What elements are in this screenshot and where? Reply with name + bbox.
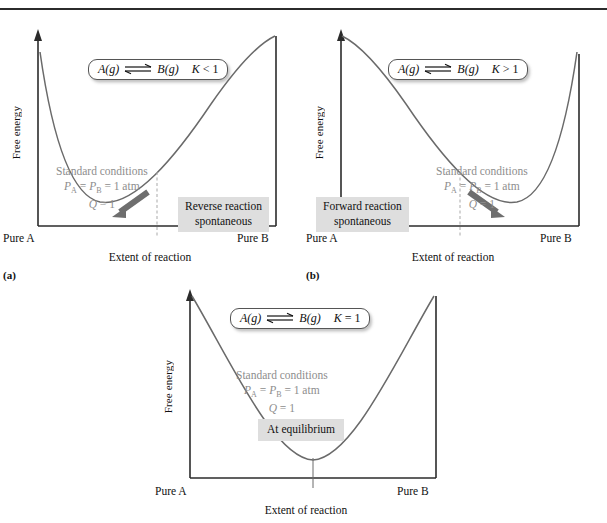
equation-reactant-a: A(g)	[98, 63, 119, 75]
spontaneity-callout-b-line2: spontaneous	[323, 214, 402, 229]
y-axis-label: Free energy	[10, 106, 22, 159]
x-axis-start-label-c: Pure A	[155, 485, 187, 497]
standard-conditions-b: Standard conditions PA = PB = 1 atm Q = …	[436, 164, 528, 212]
equation-product-c: B(g)	[299, 312, 320, 324]
panel-b: Free energy A(g)	[303, 18, 603, 270]
x-axis-label-a: Extent of reaction	[0, 251, 300, 263]
panel-tag-a: (a)	[3, 269, 16, 281]
equilibrium-callout-c-line1: At equilibrium	[267, 422, 335, 437]
equation-product-a: B(g)	[157, 63, 178, 75]
x-axis-start-label-b: Pure A	[306, 232, 338, 244]
standard-conditions-q-a: Q = 1	[56, 197, 148, 212]
standard-conditions-title-b: Standard conditions	[436, 164, 528, 179]
spontaneity-callout-a-line2: spontaneous	[185, 214, 262, 229]
standard-conditions-title-a: Standard conditions	[56, 164, 148, 179]
figure-page: Free energy	[0, 0, 607, 523]
standard-conditions-q-c: Q = 1	[236, 401, 328, 416]
spontaneity-callout-a: Reverse reaction spontaneous	[178, 197, 269, 232]
x-axis-end-label-b: Pure B	[540, 232, 572, 244]
y-axis-arrowhead-b	[337, 29, 345, 41]
equation-box-a: A(g) B(g) K < 1	[88, 59, 228, 80]
spontaneity-callout-b-line1: Forward reaction	[323, 199, 402, 214]
x-axis-label-c: Extent of reaction	[152, 504, 460, 516]
standard-conditions-a: Standard conditions PA = PB = 1 atm Q = …	[56, 164, 148, 212]
x-axis-label-b: Extent of reaction	[303, 251, 603, 263]
spontaneity-callout-b: Forward reaction spontaneous	[316, 197, 409, 232]
equilibrium-constant-b: K > 1	[492, 63, 519, 75]
y-axis-arrowhead-c	[186, 289, 194, 301]
y-axis-label-b: Free energy	[313, 106, 325, 159]
equilibrium-arrow-icon	[423, 63, 453, 75]
equation-box-b: A(g) B(g) K > 1	[388, 59, 528, 80]
page-top-rule	[0, 8, 607, 10]
x-axis-start-label-a: Pure A	[3, 232, 35, 244]
x-axis-end-label-c: Pure B	[397, 485, 429, 497]
standard-conditions-pressure-a: PA = PB = 1 atm	[56, 179, 148, 197]
equation-reactant-b: A(g)	[398, 63, 419, 75]
equilibrium-constant-a: K < 1	[192, 63, 219, 75]
spontaneity-callout-a-line1: Reverse reaction	[185, 199, 262, 214]
standard-conditions-title-c: Standard conditions	[236, 368, 328, 383]
standard-conditions-pressure-c: PA = PB = 1 atm	[236, 383, 328, 401]
equilibrium-arrow-icon	[265, 312, 295, 324]
panel-a: Free energy	[0, 18, 300, 270]
equation-box-c: A(g) B(g) K = 1	[230, 308, 370, 329]
y-axis-label-c: Free energy	[162, 360, 174, 413]
equation-reactant-c: A(g)	[240, 312, 261, 324]
equilibrium-arrow-icon	[123, 63, 153, 75]
y-axis-arrowhead-a	[34, 29, 42, 41]
equation-product-b: B(g)	[457, 63, 478, 75]
standard-conditions-q-b: Q = 1	[436, 197, 528, 212]
standard-conditions-c: Standard conditions PA = PB = 1 atm Q = …	[236, 368, 328, 416]
panel-c: Free energy A(g) B(g)	[152, 278, 460, 523]
x-axis-end-label-a: Pure B	[237, 232, 269, 244]
equilibrium-callout-c: At equilibrium	[258, 419, 344, 441]
standard-conditions-pressure-b: PA = PB = 1 atm	[436, 179, 528, 197]
equilibrium-constant-c: K = 1	[334, 312, 361, 324]
